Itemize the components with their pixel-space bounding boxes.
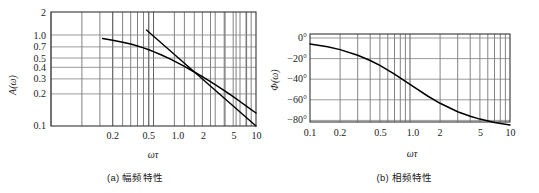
panel-magnitude-response: A(ω) 2 1.0 0.7 0.5 0.4 0.3 0.2 0.1 [0, 0, 270, 193]
y-tick-label: 0° [298, 32, 307, 43]
x-tick-label: 0.2 [334, 127, 347, 138]
x-tick-labels-a: 0.2 0.5 1.0 2 5 10 [106, 130, 261, 141]
x-tick-label: 5 [232, 130, 237, 141]
panel-phase-response: Φ(ω) 0° −20° −40° −60° −80° [270, 0, 539, 193]
y-tick-labels-a: 2 1.0 0.7 0.5 0.4 0.3 0.2 0.1 [34, 7, 47, 131]
y-tick-label: −20° [287, 53, 307, 64]
x-tick-label: 0.2 [106, 130, 119, 141]
y-tick-label: 0.2 [34, 88, 47, 99]
phase-response-plot: Φ(ω) 0° −20° −40° −60° −80° [270, 0, 539, 168]
x-axis-title-a: ωτ [148, 149, 159, 160]
x-tick-labels-b: 0.1 0.2 0.5 1.0 2 5 10 [304, 127, 516, 138]
x-tick-label: 2 [201, 130, 206, 141]
y-tick-label: −80° [287, 114, 307, 125]
y-tick-label: −60° [287, 94, 307, 105]
x-tick-label: 1.0 [407, 127, 420, 138]
x-tick-label: 0.5 [143, 130, 156, 141]
x-tick-label: 2 [438, 127, 443, 138]
y-axis-title-b: Φ(ω) [270, 69, 281, 91]
panel-b-caption: (b) 相频特性 [270, 170, 539, 184]
magnitude-response-plot: A(ω) 2 1.0 0.7 0.5 0.4 0.3 0.2 0.1 [0, 0, 270, 168]
x-tick-label: 5 [478, 127, 483, 138]
x-tick-label: 10 [506, 127, 516, 138]
y-tick-label: 1.0 [34, 30, 47, 41]
y-tick-label: 0.3 [34, 73, 47, 84]
x-tick-label: 0.5 [374, 127, 387, 138]
y-tick-label: −40° [287, 73, 307, 84]
y-tick-label: 0.7 [34, 41, 47, 52]
y-axis-title-a: A(ω) [7, 74, 19, 95]
x-tick-label: 0.1 [304, 127, 317, 138]
y-tick-label: 0.4 [34, 62, 47, 73]
x-tick-label: 1.0 [172, 130, 185, 141]
y-tick-label: 0.1 [34, 120, 47, 131]
y-tick-label: 2 [41, 7, 46, 18]
figure-container: A(ω) 2 1.0 0.7 0.5 0.4 0.3 0.2 0.1 [0, 0, 539, 193]
panel-a-caption: (a) 幅频特性 [0, 170, 270, 184]
x-tick-label: 10 [252, 130, 262, 141]
y-tick-labels-b: 0° −20° −40° −60° −80° [287, 32, 307, 125]
x-axis-title-b: ωτ [407, 148, 418, 159]
